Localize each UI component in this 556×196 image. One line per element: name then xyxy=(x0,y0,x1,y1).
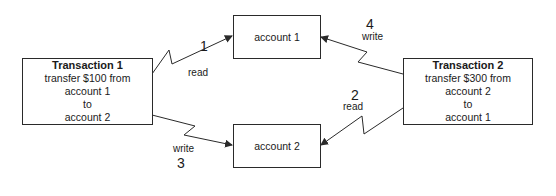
step-4-number: 4 xyxy=(366,16,374,32)
edge-t2-write-account1 xyxy=(321,37,403,74)
transaction-1-line: transfer $100 from xyxy=(45,72,131,85)
transaction-2-line: to xyxy=(464,98,473,111)
step-2-op-label: read xyxy=(343,101,363,112)
transaction-2-line: account 1 xyxy=(445,111,491,124)
transaction-1-box: Transaction 1 transfer $100 from account… xyxy=(22,58,153,125)
step-4-op-label: write xyxy=(362,31,383,42)
transaction-1-line: account 2 xyxy=(65,111,111,124)
transaction-2-line: account 2 xyxy=(445,85,491,98)
account-2-box: account 2 xyxy=(233,124,321,168)
step-3-op-label: write xyxy=(173,143,194,154)
account-1-box: account 1 xyxy=(233,15,321,59)
step-1-number: 1 xyxy=(200,38,208,54)
step-3-number: 3 xyxy=(177,155,185,171)
transaction-1-title: Transaction 1 xyxy=(52,59,123,72)
transaction-2-box: Transaction 2 transfer $300 from account… xyxy=(403,58,533,125)
transaction-2-line: transfer $300 from xyxy=(425,72,511,85)
step-1-op-label: read xyxy=(188,67,208,78)
account-2-label: account 2 xyxy=(254,140,300,152)
transaction-1-line: to xyxy=(83,98,92,111)
transaction-2-title: Transaction 2 xyxy=(433,59,504,72)
edge-t2-read-account2 xyxy=(321,108,403,145)
edge-t1-write-account2 xyxy=(152,115,232,145)
account-1-label: account 1 xyxy=(254,31,300,43)
transaction-1-line: account 1 xyxy=(65,85,111,98)
